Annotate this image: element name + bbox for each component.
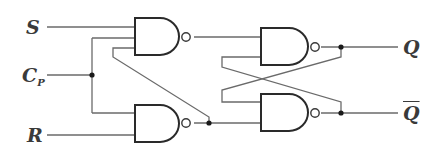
s-text: S: [26, 16, 40, 38]
nand-gate-g4: [261, 94, 319, 131]
circuit-svg: [0, 0, 443, 157]
qbar-junction-dot: [338, 110, 343, 115]
r-text: R: [27, 124, 43, 146]
s-label: S: [26, 18, 40, 37]
qbar-text: Q: [403, 102, 420, 124]
flip-flop-diagram: S CP R Q Q: [0, 0, 443, 157]
q-junction-dot: [338, 44, 343, 49]
cp-sub-text: P: [37, 77, 45, 88]
cp-label: CP: [22, 66, 45, 85]
r-label: R: [27, 126, 43, 145]
nand-gate-g2: [135, 105, 190, 142]
cp-main-text: C: [22, 64, 37, 86]
nand-gate-g3: [261, 28, 319, 65]
g2-output-junction-dot: [206, 120, 211, 125]
cp-junction-dot: [89, 72, 94, 77]
q-label: Q: [403, 38, 420, 57]
qbar-label: Q: [403, 104, 420, 123]
q-text: Q: [403, 36, 420, 58]
nand-gate-g1: [135, 18, 190, 55]
